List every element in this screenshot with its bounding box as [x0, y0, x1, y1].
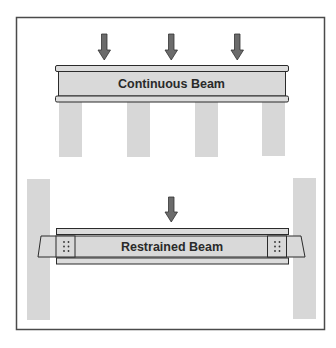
continuous-beam-label: Continuous Beam — [118, 77, 225, 91]
support-column-4 — [262, 102, 285, 156]
support-column-1 — [59, 102, 82, 157]
beam-diagram: Continuous Beam — [0, 0, 336, 348]
end-plate-right — [268, 236, 287, 257]
restrained-beam-bottom-flange — [57, 258, 289, 264]
diagram-frame — [17, 18, 325, 330]
support-column-2 — [127, 102, 150, 157]
support-column-3 — [195, 102, 218, 157]
end-plate-left — [56, 236, 75, 257]
restrained-beam-label: Restrained Beam — [121, 240, 223, 254]
continuous-beam-top-flange — [56, 66, 289, 72]
continuous-beam-bottom-flange — [56, 96, 289, 102]
restrained-beam-top-flange — [57, 229, 289, 235]
